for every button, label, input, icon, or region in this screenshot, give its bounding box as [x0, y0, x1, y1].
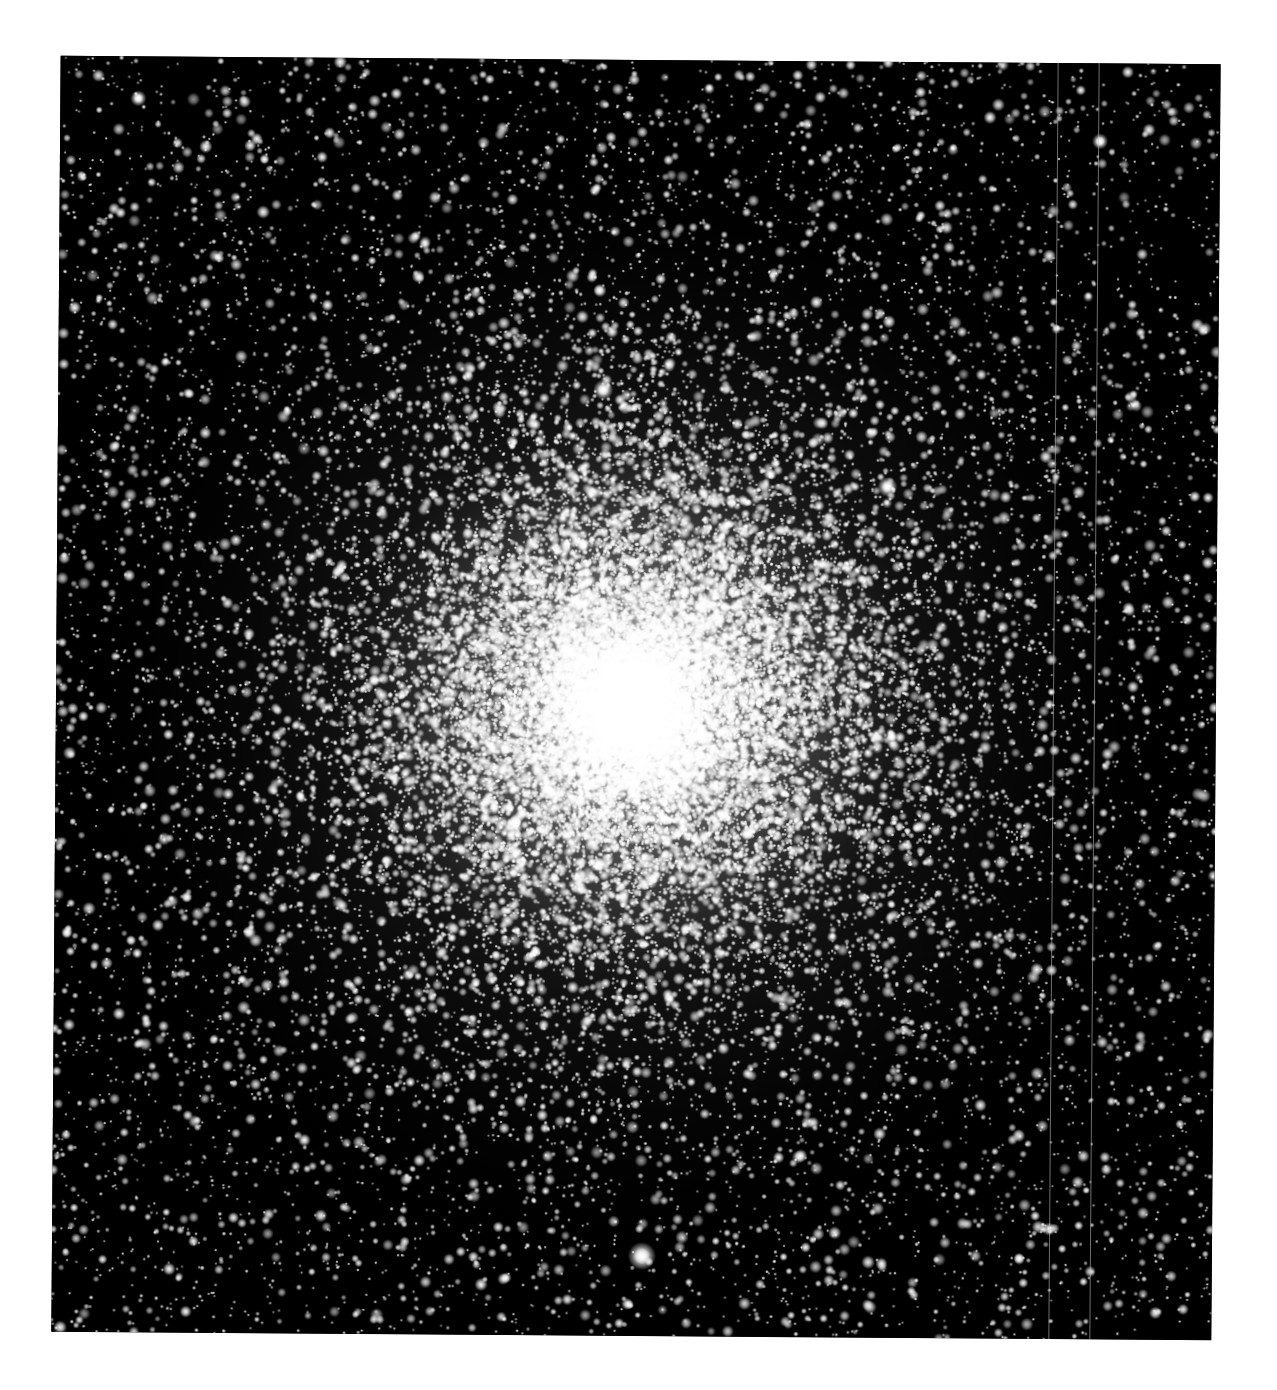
globular-cluster-image — [51, 56, 1220, 1340]
image-stage — [0, 0, 1277, 1390]
astronomical-image-frame — [51, 56, 1220, 1340]
